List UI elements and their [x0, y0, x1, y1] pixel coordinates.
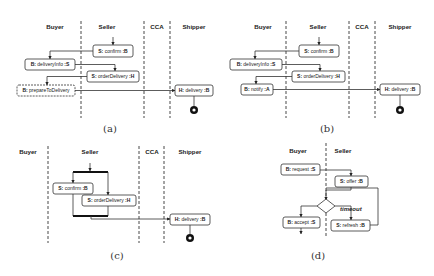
lane-label-shipper: Shipper [178, 148, 202, 155]
panel-c: Buyer Seller CCA Shipper S: confirm :B S… [19, 146, 210, 261]
svg-text:B: notify :A: B: notify :A [244, 86, 270, 92]
action-node: S: offer :B [335, 176, 368, 187]
svg-text:S: orderDelivery :H: S: orderDelivery :H [92, 73, 135, 79]
action-node: H: delivery :B [380, 84, 420, 95]
lane-label-seller: Seller [82, 148, 99, 155]
action-node: B: prepareToDelivery [17, 85, 75, 96]
final-node-icon [186, 234, 194, 242]
svg-text:B: accept :S: B: accept :S [288, 219, 316, 225]
svg-text:S: orderDelivery :H: S: orderDelivery :H [297, 73, 340, 79]
action-node: S: confirm :B [53, 183, 93, 194]
svg-text:B: deliveryInfo :S: B: deliveryInfo :S [31, 61, 70, 67]
action-node: S: refresh :B [331, 220, 370, 231]
lane-label-cca: CCA [355, 23, 369, 30]
action-node: B: notify :A [241, 84, 273, 95]
action-node: H: delivery :B [175, 85, 213, 96]
edge [326, 187, 351, 200]
action-node: B: request :S [281, 164, 320, 175]
svg-text:H: delivery :B: H: delivery :B [385, 86, 416, 92]
svg-text:S: confirm :B: S: confirm :B [304, 48, 334, 54]
caption-c: (c) [110, 250, 124, 261]
svg-text:S: orderDelivery :H: S: orderDelivery :H [88, 197, 131, 203]
figure-canvas: Buyer Seller CCA Shipper S: confirm :B B… [0, 0, 434, 276]
svg-text:S: offer :B: S: offer :B [340, 178, 363, 184]
action-node: S: confirm :B [299, 45, 339, 57]
lane-label-buyer: Buyer [289, 147, 307, 154]
svg-text:B: prepareToDelivery: B: prepareToDelivery [22, 87, 70, 93]
panel-a: Buyer Seller CCA Shipper S: confirm :B B… [17, 21, 213, 134]
edge [301, 206, 317, 217]
panel-d: Buyer Seller timeout B: request :S S: of… [281, 143, 378, 261]
edge [50, 51, 93, 59]
svg-text:H: delivery :B: H: delivery :B [179, 87, 210, 93]
lane-label-shipper: Shipper [388, 23, 412, 30]
action-node: B: deliveryInfo :S [25, 59, 75, 70]
action-node: B: accept :S [283, 217, 320, 228]
action-node: S: orderDelivery :H [292, 71, 345, 82]
svg-text:S: confirm :B: S: confirm :B [58, 185, 88, 191]
lane-label-buyer: Buyer [46, 23, 64, 30]
action-node: S: confirm :B [93, 45, 133, 57]
svg-text:B: deliveryInfo :S: B: deliveryInfo :S [237, 61, 276, 67]
svg-text:S: refresh :B: S: refresh :B [336, 222, 365, 228]
lane-label-cca: CCA [150, 23, 164, 30]
final-node-icon [396, 106, 404, 114]
lane-label-cca: CCA [145, 148, 159, 155]
caption-b: (b) [320, 123, 334, 134]
action-node: S: orderDelivery :H [87, 71, 139, 82]
decision-diamond [317, 199, 335, 213]
action-node: B: deliveryInfo :S [230, 59, 282, 70]
lane-label-seller: Seller [310, 23, 327, 30]
caption-d: (d) [311, 250, 325, 261]
lane-label-buyer: Buyer [254, 23, 272, 30]
edge [255, 51, 299, 59]
edge [256, 77, 292, 85]
guard-timeout-label: timeout [340, 206, 363, 212]
svg-text:B: request :S: B: request :S [286, 166, 316, 172]
action-node: S: orderDelivery :H [82, 195, 136, 206]
final-node-icon [190, 106, 198, 114]
caption-a: (a) [103, 123, 117, 134]
svg-text:H: delivery :B: H: delivery :B [175, 216, 206, 222]
svg-text:S: confirm :B: S: confirm :B [98, 48, 128, 54]
edge [282, 65, 320, 72]
lane-label-buyer: Buyer [19, 148, 37, 155]
edge [320, 170, 351, 176]
lane-label-shipper: Shipper [182, 23, 206, 30]
panel-b: Buyer Seller CCA Shipper S: confirm :B B… [230, 21, 420, 134]
action-node: H: delivery :B [170, 214, 210, 225]
lane-label-seller: Seller [99, 23, 116, 30]
lane-label-seller: Seller [335, 147, 352, 154]
